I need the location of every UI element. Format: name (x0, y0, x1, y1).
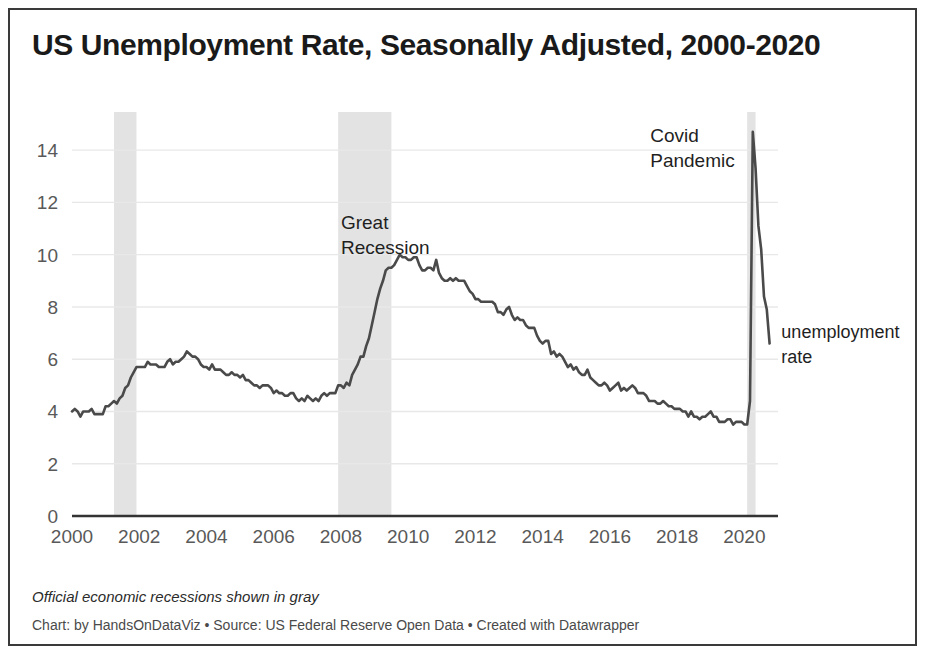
annotation-line: Covid (650, 125, 699, 146)
y-tick-label: 4 (47, 401, 58, 422)
y-tick-label: 6 (47, 349, 58, 370)
y-tick-label: 10 (37, 245, 58, 266)
x-tick-label: 2018 (656, 526, 698, 547)
x-tick-label: 2004 (185, 526, 228, 547)
x-tick-label: 2006 (253, 526, 295, 547)
chart-frame: US Unemployment Rate, Seasonally Adjuste… (8, 8, 917, 646)
recession-note: Official economic recessions shown in gr… (32, 588, 319, 605)
y-tick-label: 2 (47, 454, 58, 475)
annotation-line: Great (341, 212, 389, 233)
recession-band (338, 112, 391, 516)
x-tick-label: 2008 (320, 526, 362, 547)
y-tick-label: 14 (37, 140, 59, 161)
chart-credit: Chart: by HandsOnDataViz • Source: US Fe… (32, 617, 639, 633)
annotation-covid-pandemic: CovidPandemic (650, 125, 735, 171)
y-axis-tick-labels: 02468101214 (37, 140, 59, 527)
x-tick-label: 2020 (723, 526, 765, 547)
series-line (72, 132, 770, 425)
annotation-line: rate (781, 347, 812, 367)
recession-bands (114, 112, 756, 516)
chart-page: US Unemployment Rate, Seasonally Adjuste… (0, 0, 925, 659)
line-chart-svg: 02468101214 2000200220042006200820102012… (10, 10, 919, 648)
annotation-line: unemployment (781, 322, 899, 342)
x-tick-label: 2010 (387, 526, 429, 547)
x-tick-label: 2002 (118, 526, 160, 547)
annotation-line: Recession (341, 237, 430, 258)
y-tick-label: 12 (37, 192, 58, 213)
recession-band (114, 112, 136, 516)
y-tick-label: 0 (47, 506, 58, 527)
x-tick-label: 2014 (522, 526, 565, 547)
x-tick-label: 2000 (51, 526, 93, 547)
x-tick-label: 2012 (454, 526, 496, 547)
gridlines (72, 150, 778, 464)
annotations: GreatRecessionCovidPandemicunemploymentr… (341, 125, 899, 367)
annotation-series-label: unemploymentrate (781, 322, 899, 367)
y-tick-label: 8 (47, 297, 58, 318)
x-tick-label: 2016 (589, 526, 631, 547)
series-lines (72, 132, 770, 425)
plot-area: 02468101214 2000200220042006200820102012… (10, 10, 919, 648)
annotation-line: Pandemic (650, 150, 735, 171)
x-axis-tick-labels: 2000200220042006200820102012201420162018… (51, 526, 766, 547)
